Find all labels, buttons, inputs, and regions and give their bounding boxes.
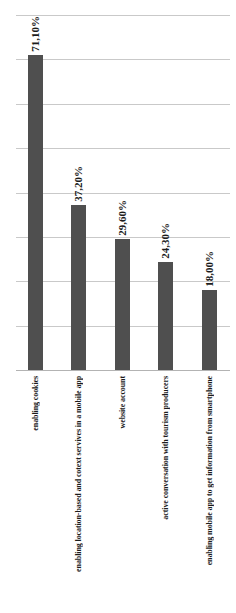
bar [71, 205, 86, 370]
x-axis-line [16, 370, 230, 371]
category-label: enabling mobile app to get information f… [204, 376, 215, 565]
bar-value-label: 37,20% [72, 166, 85, 202]
category-label: website account [117, 376, 128, 429]
bar [28, 55, 43, 371]
bar-value-label: 18,00% [203, 251, 216, 287]
bar [115, 239, 130, 370]
bar [158, 262, 173, 370]
gridline [16, 15, 230, 16]
gridline [16, 59, 230, 60]
category-label: enabling location-based and cotext servi… [73, 376, 84, 572]
bar [202, 290, 217, 370]
bar-chart: 71,10%enabling cookies37,20%enabling loc… [0, 0, 236, 613]
gridline [16, 148, 230, 149]
bar-value-label: 29,60% [116, 200, 129, 236]
bar-value-label: 24,30% [159, 223, 172, 259]
gridline [16, 193, 230, 194]
bar-value-label: 71,10% [29, 16, 42, 52]
category-label: active conversation with tourism produce… [160, 376, 171, 520]
gridline [16, 104, 230, 105]
category-label: enabling cookies [30, 376, 41, 431]
